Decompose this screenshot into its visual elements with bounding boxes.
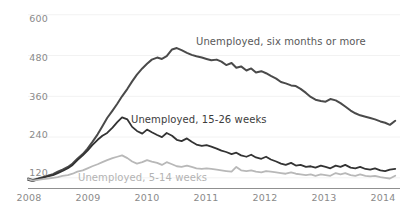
series-label-15-26-weeks: Unemployed, 15-26 weeks — [131, 114, 267, 125]
unemployment-duration-chart: 600 480 360 240 120 2008 2009 2010 2011 … — [0, 0, 416, 221]
y-tick-label-240: 240 — [14, 129, 48, 140]
y-tick-label-600: 600 — [14, 13, 48, 24]
x-tick-label-2009: 2009 — [65, 192, 111, 203]
x-tick-label-2008: 2008 — [6, 192, 52, 203]
chart-plot-area — [0, 0, 416, 221]
x-tick-label-2012: 2012 — [242, 192, 288, 203]
series-label-5-14-weeks: Unemployed, 5-14 weeks — [78, 172, 207, 183]
x-tick-label-2010: 2010 — [124, 192, 170, 203]
series-label-six-months-or-more: Unemployed, six months or more — [196, 36, 366, 47]
y-tick-label-360: 360 — [14, 91, 48, 102]
x-tick-label-2013: 2013 — [301, 192, 347, 203]
x-tick-label-2014: 2014 — [360, 192, 406, 203]
y-tick-label-480: 480 — [14, 52, 48, 63]
x-tick-label-2011: 2011 — [183, 192, 229, 203]
y-tick-label-120: 120 — [14, 167, 48, 178]
